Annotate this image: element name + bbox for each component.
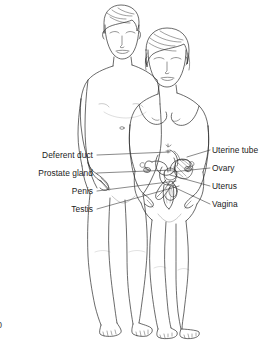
label-uterus: Uterus (212, 182, 237, 191)
label-deferent-duct: Deferent duct (42, 151, 93, 160)
label-vagina: Vagina (212, 200, 238, 209)
page-mark: 0 (0, 320, 2, 330)
label-ovary: Ovary (212, 164, 235, 173)
label-penis: Penis (72, 187, 93, 196)
label-testis: Testis (71, 205, 93, 214)
label-uterine-tube: Uterine tube (212, 146, 258, 155)
label-prostate-gland: Prostate gland (38, 169, 93, 178)
